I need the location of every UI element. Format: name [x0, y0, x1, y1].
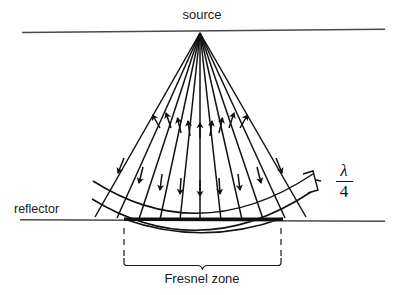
reflector-label: reflector: [14, 203, 59, 216]
arrowhead-l8: [257, 167, 261, 183]
ray-10: [200, 33, 285, 218]
arrowhead-l3: [160, 174, 162, 190]
arrowhead-l7: [238, 174, 240, 190]
aperture-line: [22, 29, 385, 32]
arrowhead-l6: [219, 178, 220, 194]
fresnel-zone-bracket: [124, 228, 281, 269]
arrowhead-l4: [180, 178, 181, 194]
diagram-canvas: [0, 0, 404, 295]
ray-1: [95, 33, 200, 217]
ray-5: [180, 33, 200, 220]
wavefront-arcs: [92, 174, 313, 233]
fresnel-zone-label: Fresnel zone: [0, 272, 404, 285]
ray-7: [200, 33, 221, 220]
arrowhead-u2: [166, 113, 171, 128]
ray-3: [139, 33, 200, 219]
arrowhead-u1: [153, 115, 161, 128]
lambda-over-four-label: λ 4: [327, 162, 361, 201]
lambda-symbol: λ: [327, 162, 361, 180]
fraction-denominator: 4: [327, 183, 361, 201]
source-label: source: [0, 8, 404, 21]
fresnel-zone-diagram: source reflector Fresnel zone λ 4: [0, 0, 404, 295]
bracket-brace: [124, 258, 281, 269]
